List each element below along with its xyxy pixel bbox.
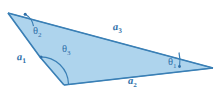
triangle-figure-svg [0, 0, 224, 96]
angle-label-theta1: θ1 [168, 57, 177, 70]
angle-arc-theta3-dot [40, 56, 43, 59]
angle-label-theta3: θ3 [62, 44, 71, 57]
angle-arc-theta2-dot [24, 13, 27, 16]
side-label-a2: a2 [128, 76, 137, 89]
polygon-shape [8, 13, 213, 85]
figure-container: a1 a2 a3 θ1 θ2 θ3 [0, 0, 224, 96]
side-label-a3: a3 [113, 22, 122, 36]
angle-arc-theta1-dot [178, 65, 181, 68]
side-label-a1: a1 [17, 52, 26, 65]
angle-label-theta2: θ2 [33, 26, 42, 39]
